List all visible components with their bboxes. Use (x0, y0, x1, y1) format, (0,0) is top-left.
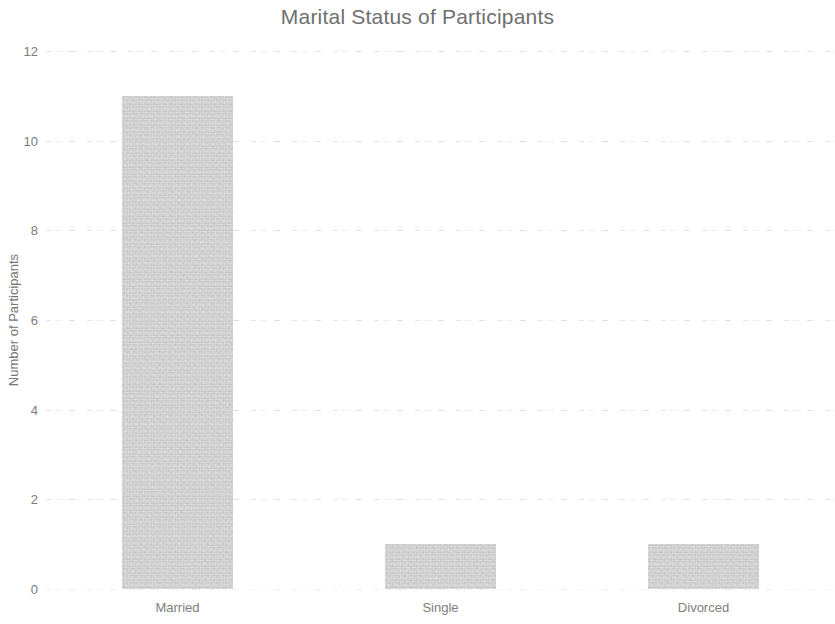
y-axis-tick-label: 4 (0, 402, 38, 417)
bar[interactable] (385, 544, 496, 589)
gridline (46, 589, 835, 590)
bar[interactable] (122, 96, 233, 589)
y-axis-tick-label: 10 (0, 133, 38, 148)
plot-area (46, 51, 835, 589)
chart-title: Marital Status of Participants (0, 5, 835, 29)
y-axis-tick-labels: 024681012 (0, 51, 38, 589)
x-axis-tick-label: Divorced (678, 600, 729, 615)
bar-chart: Marital Status of Participants Number of… (0, 0, 835, 624)
y-axis-tick-label: 6 (0, 313, 38, 328)
y-axis-tick-label: 8 (0, 223, 38, 238)
x-axis-tick-label: Single (422, 600, 458, 615)
gridline (46, 51, 835, 52)
y-axis-tick-label: 2 (0, 492, 38, 507)
y-axis-tick-label: 12 (0, 44, 38, 59)
x-axis-tick-labels: MarriedSingleDivorced (46, 596, 835, 624)
y-axis-tick-label: 0 (0, 582, 38, 597)
x-axis-tick-label: Married (155, 600, 199, 615)
bar[interactable] (648, 544, 759, 589)
